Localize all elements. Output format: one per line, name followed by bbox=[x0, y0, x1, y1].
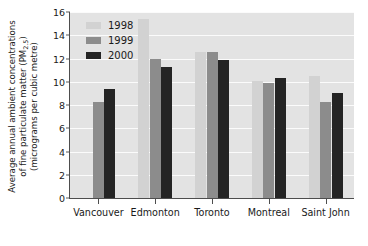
y-axis-ticks: 0246810121416 bbox=[46, 0, 70, 212]
bar-saint-john-1999 bbox=[320, 102, 331, 198]
bar-vancouver-1999 bbox=[93, 102, 104, 198]
legend-swatch-2000 bbox=[86, 52, 101, 59]
y-axis-tick-label: 10 bbox=[53, 76, 65, 87]
x-axis-label-montreal: Montreal bbox=[248, 207, 290, 218]
bar-montreal-1999 bbox=[263, 83, 274, 198]
x-axis-tick-mark bbox=[155, 199, 156, 204]
y-axis-tick-label: 0 bbox=[59, 193, 65, 204]
bar-chart: Average annual ambient concentrations of… bbox=[0, 0, 368, 246]
gridline bbox=[70, 12, 354, 13]
legend-label-2000: 2000 bbox=[108, 50, 133, 61]
y-axis-title-line-3: (micrograms per cubic metre) bbox=[29, 20, 40, 192]
bar-toronto-1998 bbox=[195, 52, 206, 198]
y-axis-tick-label: 16 bbox=[53, 7, 65, 18]
x-axis-tick-mark bbox=[98, 199, 99, 204]
x-axis-label-vancouver: Vancouver bbox=[73, 207, 124, 218]
x-axis-label-edmonton: Edmonton bbox=[131, 207, 180, 218]
legend-item-2000[interactable]: 2000 bbox=[86, 48, 133, 63]
bar-montreal-2000 bbox=[275, 78, 286, 198]
x-axis-label-toronto: Toronto bbox=[194, 207, 229, 218]
y-axis-title: Average annual ambient concentrations of… bbox=[0, 0, 46, 212]
bar-saint-john-2000 bbox=[332, 93, 343, 198]
bar-saint-john-1998 bbox=[309, 76, 320, 198]
bar-edmonton-2000 bbox=[161, 67, 172, 198]
y-axis-tick-label: 14 bbox=[53, 30, 65, 41]
bar-vancouver-2000 bbox=[104, 89, 115, 198]
y-axis-title-line-2: of fine particulate matter (PM2.5) bbox=[18, 20, 29, 192]
y-axis-tick-label: 8 bbox=[59, 100, 65, 111]
y-axis-tick-label: 6 bbox=[59, 123, 65, 134]
x-axis-tick-mark bbox=[269, 199, 270, 204]
bar-montreal-1998 bbox=[252, 81, 263, 198]
legend-item-1999[interactable]: 1999 bbox=[86, 33, 133, 48]
y-axis-tick-label: 2 bbox=[59, 169, 65, 180]
y-axis-tick-label: 4 bbox=[59, 146, 65, 157]
legend-item-1998[interactable]: 1998 bbox=[86, 18, 133, 33]
bar-edmonton-1999 bbox=[150, 59, 161, 199]
y-axis-line bbox=[69, 12, 70, 199]
y-axis-tick-label: 12 bbox=[53, 53, 65, 64]
x-axis-tick-mark bbox=[212, 199, 213, 204]
legend-swatch-1999 bbox=[86, 37, 101, 44]
bar-edmonton-1998 bbox=[138, 19, 149, 198]
chart-legend: 199819992000 bbox=[86, 18, 133, 63]
x-axis-label-saint-john: Saint John bbox=[301, 207, 349, 218]
legend-label-1999: 1999 bbox=[108, 35, 133, 46]
bar-toronto-2000 bbox=[218, 60, 229, 198]
legend-swatch-1998 bbox=[86, 22, 101, 29]
x-axis-tick-mark bbox=[326, 199, 327, 204]
legend-label-1998: 1998 bbox=[108, 20, 133, 31]
bar-toronto-1999 bbox=[207, 52, 218, 198]
y-axis-title-line-1: Average annual ambient concentrations bbox=[7, 20, 18, 192]
